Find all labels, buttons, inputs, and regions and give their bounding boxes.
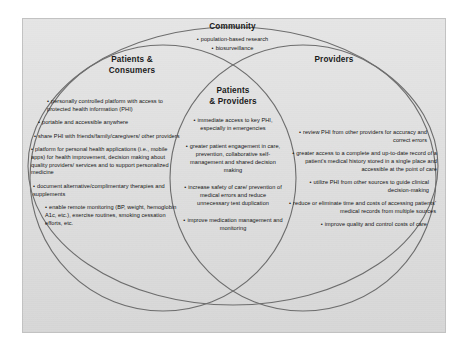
list-item: greater patient engagement in care, prev… [183, 142, 283, 174]
list-item: reduce or eliminate time and costs of ac… [288, 200, 436, 216]
community-bullet-list: population-based research biosurveillanc… [145, 35, 320, 52]
list-item: immediate access to key PHI, especially … [183, 116, 283, 132]
list-item: improve quality and control costs of car… [288, 221, 427, 229]
list-item: greater access to a complete and up-to-d… [288, 150, 437, 174]
patients-providers-title: Patients & Providers [183, 86, 283, 107]
patients-providers-title-line1: Patients [183, 86, 283, 97]
list-item: biosurveillance [145, 44, 320, 52]
patients-consumers-title: Patients & Consumers [84, 55, 180, 76]
list-item: review PHI from other providers for accu… [288, 129, 427, 145]
list-item: platform for personal health application… [31, 146, 180, 178]
region-providers: Providers review PHI from other provider… [288, 55, 440, 229]
patients-providers-title-line2: & Providers [183, 97, 283, 108]
list-item: portable and accessible anywhere [38, 119, 180, 127]
list-item: increase safety of care/ prevention of m… [183, 183, 283, 207]
region-community: Community population-based research bios… [145, 22, 320, 52]
patients-consumers-title-line1: Patients & [84, 55, 180, 66]
list-item: share PHI with friends/family/caregivers… [34, 133, 180, 141]
list-item: utilize PHI from other sources to guide … [288, 179, 429, 195]
list-item: personally controlled platform with acce… [47, 98, 180, 114]
list-item: enable remote monitoring (BP, weight, he… [45, 204, 180, 228]
community-title: Community [145, 22, 320, 33]
patients-consumers-title-line2: Consumers [84, 66, 180, 77]
region-patients-consumers: Patients & Consumers personally controll… [28, 55, 180, 227]
list-item: population-based research [145, 35, 320, 43]
list-item: document alternative/complimentary thera… [33, 183, 180, 199]
patients-providers-bullet-list: immediate access to key PHI, especially … [183, 116, 283, 232]
list-item: improve medication management and monito… [183, 216, 283, 232]
patients-consumers-bullet-list: personally controlled platform with acce… [28, 98, 180, 227]
providers-bullet-list: review PHI from other providers for accu… [288, 129, 440, 229]
venn-diagram: Community population-based research bios… [0, 0, 465, 350]
region-patients-providers: Patients & Providers immediate access to… [183, 86, 283, 242]
providers-title: Providers [288, 55, 380, 66]
